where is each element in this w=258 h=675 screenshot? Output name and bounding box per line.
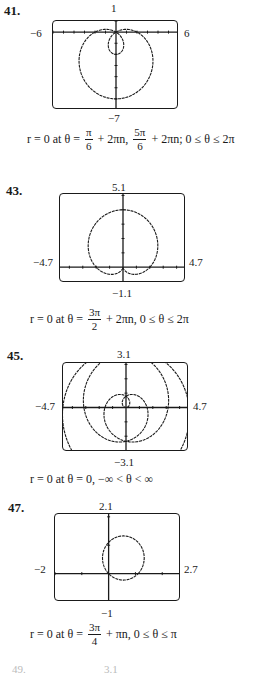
graph-frame — [62, 362, 188, 451]
formula-term: + 2πn; 0 ≤ θ ≤ 2π — [148, 132, 234, 147]
formula-prefix: r = 0 at θ = — [30, 312, 86, 327]
polar-plot — [60, 194, 185, 282]
answer-formula: r = 0 at θ = 0, −∞ < θ < ∞ — [30, 472, 153, 487]
fraction: 3π2 — [88, 307, 101, 332]
y-min-label: −1.1 — [112, 287, 132, 299]
x-max-label: 2.7 — [184, 563, 198, 575]
polar-plot — [55, 514, 180, 601]
formula-prefix: r = 0 at θ = — [27, 132, 83, 147]
fraction: 5π6 — [133, 127, 146, 152]
y-min-label: −1 — [101, 607, 113, 619]
fraction: 3π4 — [88, 622, 101, 647]
y-max-label: 5.1 — [112, 181, 126, 193]
y-max-label: 2.1 — [99, 500, 113, 512]
y-max-label: 3.1 — [117, 348, 131, 360]
cutoff-problem-number: 49. — [12, 663, 26, 675]
answer-formula: r = 0 at θ = 3π2 + 2πn, 0 ≤ θ ≤ 2π — [30, 307, 189, 332]
x-min-label: −2 — [34, 563, 46, 575]
y-max-label: 1 — [111, 2, 117, 14]
graph-frame — [54, 513, 180, 601]
formula-term: + 2πn, 0 ≤ θ ≤ 2π — [103, 312, 189, 327]
problem-number: 45. — [7, 348, 23, 364]
formula-prefix: r = 0 at θ = — [30, 627, 86, 642]
formula-text: r = 0 at θ = 0, −∞ < θ < ∞ — [30, 472, 153, 487]
x-min-label: −4.7 — [33, 256, 53, 268]
cutoff-y-max-label: 3.1 — [104, 663, 118, 675]
x-max-label: 6 — [184, 27, 190, 39]
x-min-label: −4.7 — [35, 400, 55, 412]
answer-formula: r = 0 at θ = π6 + 2πn, 5π6 + 2πn; 0 ≤ θ … — [27, 127, 235, 152]
y-min-label: −3.1 — [114, 456, 134, 468]
graph-frame — [59, 193, 185, 282]
problem-number: 41. — [4, 3, 20, 19]
x-min-label: −6 — [30, 27, 42, 39]
problem-number: 43. — [6, 183, 22, 199]
formula-term: + 2πn, — [95, 132, 132, 147]
x-max-label: 4.7 — [189, 256, 203, 268]
formula-term: + πn, 0 ≤ θ ≤ π — [103, 627, 177, 642]
polar-plot — [63, 363, 188, 451]
polar-plot — [53, 21, 178, 109]
fraction: π6 — [85, 127, 93, 152]
graph-frame — [52, 20, 178, 109]
answer-formula: r = 0 at θ = 3π4 + πn, 0 ≤ θ ≤ π — [30, 622, 177, 647]
problem-number: 47. — [8, 500, 24, 516]
x-max-label: 4.7 — [193, 400, 207, 412]
y-min-label: −7 — [108, 112, 120, 124]
